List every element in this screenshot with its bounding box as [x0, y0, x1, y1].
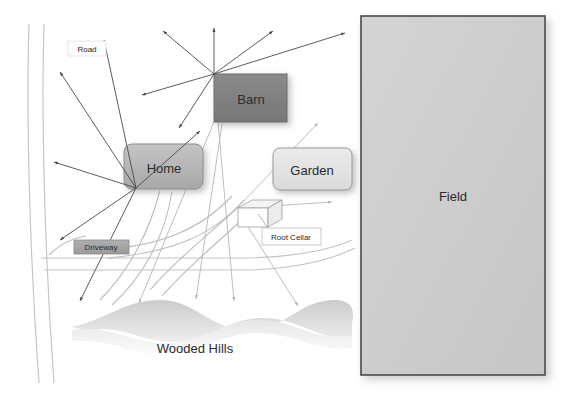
diagram-canvas: Field Garden Barn [0, 0, 581, 406]
wooded-hills-label: Wooded Hills [157, 341, 234, 356]
barn-arrow-ne [214, 31, 273, 74]
barn-arrow-w [142, 74, 214, 95]
road-line-right [43, 24, 54, 383]
root-cellar-front[interactable] [238, 208, 268, 227]
root-cellar-tag[interactable]: Root Cellar [262, 228, 321, 245]
field-label: Field [439, 189, 467, 204]
home-arrow-n [104, 40, 136, 188]
driveway-tag[interactable]: Driveway [74, 240, 129, 254]
diagram-svg: Field Garden Barn [0, 0, 581, 406]
driveway-tag-label: Driveway [85, 243, 118, 252]
road-tag[interactable]: Road [68, 41, 106, 56]
barn-arrow-nw [163, 31, 214, 74]
light-arrow-3 [218, 122, 234, 301]
home-arrow-nw [60, 72, 136, 188]
field-shape[interactable]: Field [361, 16, 545, 375]
root-cellar-shape[interactable] [238, 200, 282, 228]
barn-arrow-sw [179, 74, 214, 128]
barn-label: Barn [237, 92, 264, 107]
road-tag-label: Road [77, 45, 96, 54]
road-line-left [28, 24, 39, 383]
home-shape[interactable]: Home [124, 144, 203, 189]
barn-shape[interactable]: Barn [214, 74, 287, 122]
home-arrow-sw [60, 188, 136, 240]
garden-shape[interactable]: Garden [273, 148, 352, 190]
root-cellar-tag-label: Root Cellar [271, 233, 311, 242]
barn-arrow-e [214, 33, 345, 74]
garden-label: Garden [290, 163, 333, 178]
